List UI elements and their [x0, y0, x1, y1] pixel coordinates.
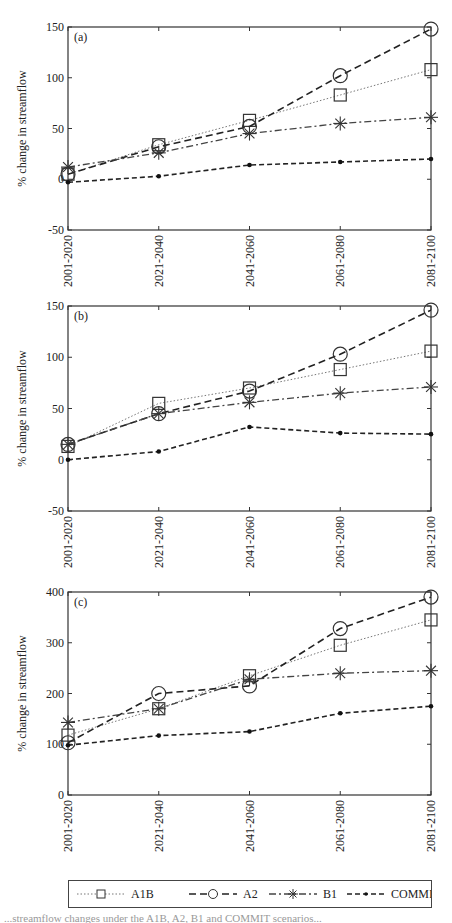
- legend-label: B1: [323, 887, 337, 901]
- b1-marker-asterisk: [152, 146, 166, 160]
- commit-marker-dot: [247, 425, 252, 430]
- commit-marker-dot: [429, 432, 434, 437]
- commit-marker-dot: [156, 174, 161, 179]
- legend-item-a2: A2: [189, 887, 258, 901]
- commit-marker-dot: [66, 457, 71, 462]
- chart-legend: A1BA2B1COMMIT: [68, 880, 432, 908]
- commit-marker-dot: [66, 180, 71, 185]
- y-tick-label: 0: [58, 453, 64, 467]
- commit-marker-dot: [247, 729, 252, 734]
- y-axis-label: % change in streamflow: [15, 350, 29, 467]
- a1b-marker-square: [334, 364, 346, 376]
- x-tick-label: 2081-2100: [424, 800, 438, 852]
- x-tick-label: 2061-2080: [333, 235, 347, 287]
- x-tick-label: 2061-2080: [333, 516, 347, 568]
- x-tick-label: 2021-2040: [152, 800, 166, 852]
- b1-marker-asterisk: [61, 715, 75, 729]
- b1-marker-asterisk: [424, 110, 438, 124]
- y-tick-label: -50: [48, 504, 64, 518]
- b1-marker-asterisk: [424, 380, 438, 394]
- b1-marker-asterisk: [61, 160, 75, 174]
- commit-marker-dot: [429, 704, 434, 709]
- b1-marker-asterisk: [61, 437, 75, 451]
- legend-label: A1B: [131, 887, 154, 901]
- b1-marker-asterisk: [243, 127, 257, 141]
- series-a1b: [62, 64, 437, 181]
- commit-marker-dot: [338, 711, 343, 716]
- legend-item-b1: B1: [269, 887, 337, 901]
- series-commit: [66, 157, 434, 185]
- b1-marker-asterisk: [424, 664, 438, 678]
- x-tick-label: 2001-2020: [61, 800, 75, 852]
- plot-frame: [68, 592, 431, 795]
- b1-marker-asterisk: [243, 395, 257, 409]
- series-commit: [66, 704, 434, 748]
- b1-marker-asterisk: [152, 407, 166, 421]
- series-a2: [61, 22, 438, 181]
- commit-marker-dot: [338, 160, 343, 165]
- x-tick-label: 2001-2020: [61, 516, 75, 568]
- x-tick-label: 2041-2060: [243, 235, 257, 287]
- chart-panel-c: 01002003004002001-20202021-20402041-2060…: [15, 585, 438, 852]
- b1-marker-asterisk: [333, 386, 347, 400]
- chart-panel-b: -500501001502001-20202021-20402041-20602…: [15, 299, 438, 568]
- streamflow-figure: -500501001502001-20202021-20402041-20602…: [0, 0, 452, 923]
- chart-panel-a: -500501001502001-20202021-20402041-20602…: [15, 20, 438, 287]
- x-tick-label: 2081-2100: [424, 235, 438, 287]
- x-tick-label: 2061-2080: [333, 800, 347, 852]
- commit-marker-dot: [156, 733, 161, 738]
- y-tick-label: 300: [46, 636, 64, 650]
- legend-item-commit: COMMIT: [347, 887, 431, 901]
- y-tick-label: 100: [46, 71, 64, 85]
- y-tick-label: 200: [46, 687, 64, 701]
- y-axis-label: % change in streamflow: [15, 70, 29, 187]
- y-tick-label: 50: [52, 122, 64, 136]
- b1-marker-asterisk: [333, 116, 347, 130]
- commit-marker-dot: [429, 157, 434, 162]
- commit-marker-dot: [338, 431, 343, 436]
- commit-marker-dot: [247, 163, 252, 168]
- b1-marker-asterisk: [152, 702, 166, 716]
- legend-label: COMMIT: [391, 887, 431, 901]
- panel-label: (b): [74, 309, 88, 323]
- x-tick-label: 2021-2040: [152, 516, 166, 568]
- commit-marker-dot: [156, 449, 161, 454]
- series-b1: [61, 664, 438, 730]
- y-axis-label: % change in streamflow: [15, 635, 29, 752]
- b1-marker-asterisk: [333, 666, 347, 680]
- y-tick-label: 0: [58, 788, 64, 802]
- x-tick-label: 2021-2040: [152, 235, 166, 287]
- y-tick-label: -50: [48, 223, 64, 237]
- legend-label: A2: [243, 887, 258, 901]
- series-commit: [66, 425, 434, 462]
- x-tick-label: 2001-2020: [61, 235, 75, 287]
- commit-marker-dot: [66, 743, 71, 748]
- y-tick-label: 50: [52, 402, 64, 416]
- figure-caption: ...streamflow changes under the A1B, A2,…: [4, 912, 448, 923]
- x-tick-label: 2041-2060: [243, 516, 257, 568]
- legend-item-a1b: A1B: [77, 887, 154, 901]
- x-tick-label: 2041-2060: [243, 800, 257, 852]
- y-tick-label: 100: [46, 350, 64, 364]
- panel-label: (a): [74, 30, 87, 44]
- panel-label: (c): [74, 595, 87, 609]
- y-tick-label: 400: [46, 585, 64, 599]
- x-tick-label: 2081-2100: [424, 516, 438, 568]
- y-tick-label: 150: [46, 299, 64, 313]
- y-tick-label: 150: [46, 20, 64, 34]
- a1b-marker-square: [334, 639, 346, 651]
